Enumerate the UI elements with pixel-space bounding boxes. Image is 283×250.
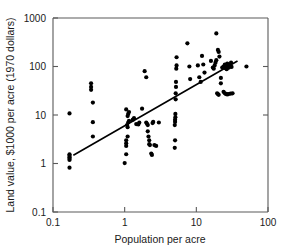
data-point [217, 93, 221, 97]
data-point [202, 70, 206, 74]
data-point [67, 111, 71, 115]
y-tick-label: 100 [29, 61, 46, 72]
data-point [219, 81, 223, 85]
data-point [151, 120, 155, 124]
y-tick-label: 10 [35, 110, 47, 121]
axis-lines [53, 18, 268, 212]
data-point [157, 120, 161, 124]
data-point [146, 129, 150, 133]
data-point [188, 77, 192, 81]
data-point [219, 76, 223, 80]
data-point [174, 85, 178, 89]
data-point [126, 134, 130, 138]
data-point [173, 138, 177, 142]
data-point [174, 63, 178, 67]
regression-line-layer [74, 61, 237, 155]
data-point [144, 75, 148, 79]
y-tick-label: 0.1 [32, 207, 46, 218]
data-point [173, 146, 177, 150]
data-point [148, 143, 152, 147]
data-point [150, 153, 154, 157]
data-point [143, 69, 147, 73]
data-point [214, 31, 218, 35]
data-point [123, 161, 127, 165]
data-point [146, 123, 150, 127]
data-point [174, 55, 178, 59]
data-point [124, 107, 128, 111]
x-tick-label: 1 [122, 217, 128, 228]
data-point [147, 138, 151, 142]
regression-line [74, 61, 237, 155]
x-axis-title: Population per acre [114, 233, 205, 245]
data-point [91, 101, 95, 105]
plot-frame [53, 18, 268, 212]
data-point [187, 64, 191, 68]
chart-canvas: 0.11101001000 0.1110100 Population per a… [0, 0, 283, 250]
data-point [67, 158, 71, 162]
data-point-layer [67, 31, 248, 169]
scatter-plot-figure: 0.11101001000 0.1110100 Population per a… [0, 0, 283, 250]
data-point [197, 75, 201, 79]
data-point [209, 59, 213, 63]
data-point [244, 64, 248, 68]
data-point [137, 120, 141, 124]
y-tick-label: 1000 [24, 13, 47, 24]
x-tick-label: 100 [260, 217, 277, 228]
data-point [146, 134, 150, 138]
data-point [217, 55, 221, 59]
data-point [230, 91, 234, 95]
data-point [67, 166, 71, 170]
y-tick-label: 1 [40, 158, 46, 169]
data-point [124, 138, 128, 142]
data-point [214, 58, 218, 62]
data-point [124, 152, 128, 156]
x-tick-label: 10 [191, 217, 203, 228]
data-point [140, 107, 144, 111]
data-point [174, 80, 178, 84]
x-tick-label: 0.1 [46, 217, 60, 228]
data-point [196, 63, 200, 67]
y-axis-title: Land value, $1000 per acre (1970 dollars… [4, 18, 16, 213]
data-point [91, 120, 95, 124]
data-point [173, 112, 177, 116]
data-point [89, 88, 93, 92]
data-point [200, 54, 204, 58]
x-axis-ticks: 0.1110100 [46, 67, 277, 229]
data-point [201, 62, 205, 66]
data-point [154, 144, 158, 148]
data-point [185, 41, 189, 45]
data-point [217, 50, 221, 54]
data-point [91, 134, 95, 138]
